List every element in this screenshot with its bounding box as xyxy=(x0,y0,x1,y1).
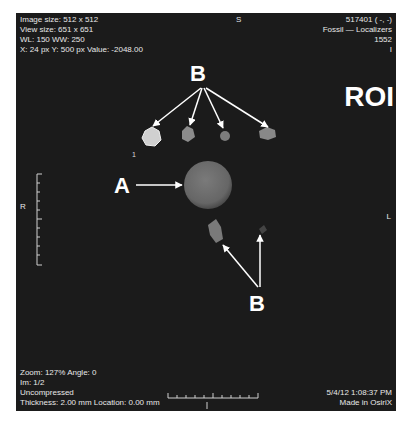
label-a: A xyxy=(114,173,130,199)
marker-5 xyxy=(208,219,223,243)
datetime-text: 5/4/12 1:08:37 PM xyxy=(327,388,392,398)
orientation-right: L xyxy=(387,212,391,221)
roi-label: ROI xyxy=(344,81,394,113)
pixel-value-text: X: 24 px Y: 500 px Value: -2048.00 xyxy=(20,45,143,55)
view-size-text: View size: 651 x 651 xyxy=(20,25,143,35)
horizontal-scale-bar xyxy=(168,393,258,409)
window-level-text: WL: 150 WW: 250 xyxy=(20,35,143,45)
orientation-left: R xyxy=(20,202,26,211)
image-size-text: Image size: 512 x 512 xyxy=(20,15,143,25)
zoom-angle-text: Zoom: 127% Angle: 0 xyxy=(20,368,160,378)
arrows-b-bottom xyxy=(223,235,260,287)
image-canvas[interactable] xyxy=(16,13,396,411)
marker-2 xyxy=(182,126,195,142)
marker-6 xyxy=(259,225,267,234)
marker-1 xyxy=(142,127,161,146)
series-number-text: 1552 xyxy=(323,35,392,45)
arrows-b-top xyxy=(153,88,268,128)
study-description-text: Fossil — Localizers xyxy=(323,25,392,35)
info-top-left: Image size: 512 x 512 View size: 651 x 6… xyxy=(20,15,143,55)
thickness-location-text: Thickness: 2.00 mm Location: 0.00 mm xyxy=(20,398,160,408)
vertical-scale-bar xyxy=(37,174,42,265)
orientation-top: S xyxy=(236,15,241,24)
roi-sphere xyxy=(184,161,232,209)
info-bottom-right: 5/4/12 1:08:37 PM Made in OsiriX xyxy=(327,388,392,408)
label-b-top: B xyxy=(190,61,206,87)
dicom-viewer[interactable]: Image size: 512 x 512 View size: 651 x 6… xyxy=(16,13,396,411)
patient-id-text: 517401 ( -, -) xyxy=(323,15,392,25)
compression-text: Uncompressed xyxy=(20,388,160,398)
marker-3 xyxy=(220,131,230,141)
slice-marker: 1 xyxy=(132,151,136,158)
made-in-text: Made in OsiriX xyxy=(327,398,392,408)
info-bottom-left: Zoom: 127% Angle: 0 Im: 1/2 Uncompressed… xyxy=(20,368,160,408)
label-b-bottom: B xyxy=(249,291,265,317)
image-index-text: Im: 1/2 xyxy=(20,378,160,388)
info-top-right: 517401 ( -, -) Fossil — Localizers 1552 … xyxy=(323,15,392,55)
marker-4 xyxy=(259,127,276,140)
orientation-marker-text: I xyxy=(323,45,392,55)
